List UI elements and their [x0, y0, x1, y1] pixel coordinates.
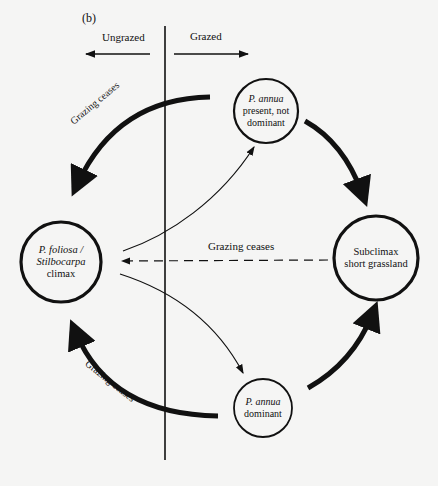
node-climax-line3: climax — [47, 268, 76, 280]
edge-subclimax-to-climax — [122, 260, 328, 261]
edge-climax-to-dominant — [120, 274, 243, 373]
panel-label: (b) — [82, 12, 96, 24]
node-annua-dominant: P. annua dominant — [234, 379, 292, 437]
edge-present-to-subclimax — [305, 121, 362, 193]
node-annua-present-line1: P. annua — [249, 93, 284, 105]
node-annua-present-line3: dominant — [247, 117, 285, 129]
node-climax-line1: P. foliosa / — [39, 244, 83, 256]
succession-diagram: (b) Ungrazed Grazed P. foliosa / Stilboc… — [0, 0, 438, 486]
node-subclimax-line2: short grassland — [344, 258, 407, 270]
node-climax-line2: Stilbocarpa — [37, 256, 86, 268]
node-annua-present: P. annua present, not dominant — [234, 79, 298, 143]
node-climax: P. foliosa / Stilbocarpa climax — [21, 222, 101, 302]
node-annua-dominant-line1: P. annua — [246, 396, 281, 408]
edge-dominant-to-subclimax — [308, 315, 372, 388]
edge-label-middle-grazing-ceases: Grazing ceases — [208, 240, 274, 252]
node-subclimax-line1: Subclimax — [354, 246, 399, 258]
region-ungrazed-label: Ungrazed — [102, 31, 145, 43]
edge-present-to-climax — [78, 97, 210, 183]
edge-climax-to-present — [123, 147, 254, 251]
node-annua-dominant-line2: dominant — [244, 408, 282, 420]
node-annua-present-line2: present, not — [243, 105, 290, 117]
node-subclimax: Subclimax short grassland — [334, 216, 418, 300]
region-grazed-label: Grazed — [190, 30, 222, 42]
